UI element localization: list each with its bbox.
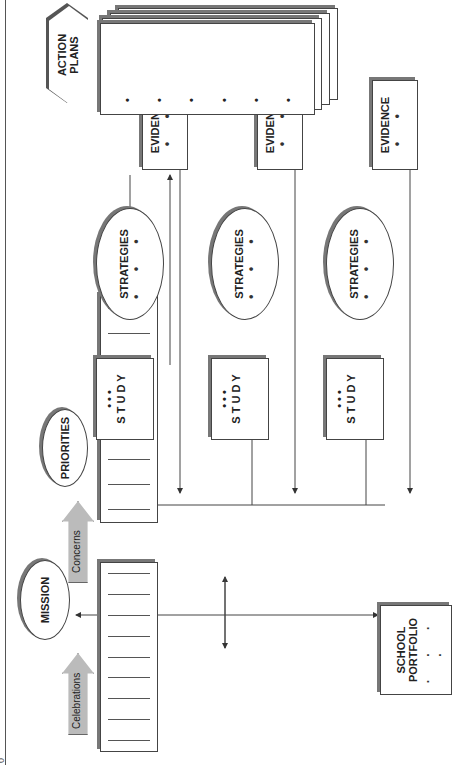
- strategies-dots-3: • • •: [360, 229, 372, 298]
- action-plans-line1: ACTION: [56, 5, 68, 105]
- celebrations-label: Celebrations: [71, 673, 82, 729]
- strategies-ellipse-3: STRATEGIES • • •: [326, 208, 394, 320]
- evidence-box-3: EVIDENCE • •: [372, 80, 418, 170]
- strategies-ellipse-2: STRATEGIES • • •: [211, 208, 279, 320]
- action-plan-page-front: • • • • • •: [100, 23, 315, 115]
- celebrations-arrow: Celebrations: [62, 645, 92, 735]
- action-plans-hexagon: ACTION PLANS: [48, 5, 90, 105]
- action-plan-bullet: •: [250, 24, 262, 102]
- study-letters-2: S T U D Y: [230, 359, 242, 439]
- study-letters-1: S T U D Y: [115, 359, 127, 439]
- action-plan-bullet: •: [121, 24, 133, 102]
- school-portfolio-line1: SCHOOL: [395, 606, 407, 694]
- study-box-1: • • • S T U D Y: [96, 358, 154, 440]
- action-plan-bullet: •: [153, 24, 165, 102]
- concerns-label: Concerns: [71, 530, 82, 573]
- study-box-2: • • • S T U D Y: [211, 358, 269, 440]
- study-box-3: • • • S T U D Y: [326, 358, 384, 440]
- concerns-arrow: Concerns: [62, 493, 92, 583]
- strategies-ellipse-1: STRATEGIES • • •: [96, 208, 164, 320]
- school-portfolio-box: SCHOOL PORTFOLIO . . . .: [380, 605, 452, 695]
- school-portfolio-dots: . . . .: [419, 606, 443, 694]
- study-dots-3: • • •: [333, 359, 345, 439]
- action-plan-bullet: •: [282, 24, 294, 102]
- evidence-dots-3: • •: [391, 81, 403, 169]
- study-dots-1: • • •: [103, 359, 115, 439]
- action-plan-bullet: •: [218, 24, 230, 102]
- action-plan-bullet: •: [185, 24, 197, 102]
- diagram-stage: MISSION PRIORITIES Celebrations Concerns…: [0, 0, 459, 765]
- action-plans-line2: PLANS: [68, 5, 80, 105]
- priorities-ellipse: PRIORITIES: [42, 409, 88, 487]
- study-dots-2: • • •: [218, 359, 230, 439]
- mission-label: MISSION: [39, 577, 51, 623]
- page-number: 0: [0, 758, 6, 763]
- celebrations-list-box: [100, 562, 158, 752]
- strategies-dots-1: • • •: [130, 229, 142, 298]
- strategies-dots-2: • • •: [245, 229, 257, 298]
- rotated-diagram-canvas: MISSION PRIORITIES Celebrations Concerns…: [0, 0, 459, 765]
- study-letters-3: S T U D Y: [345, 359, 357, 439]
- priorities-label: PRIORITIES: [59, 417, 71, 479]
